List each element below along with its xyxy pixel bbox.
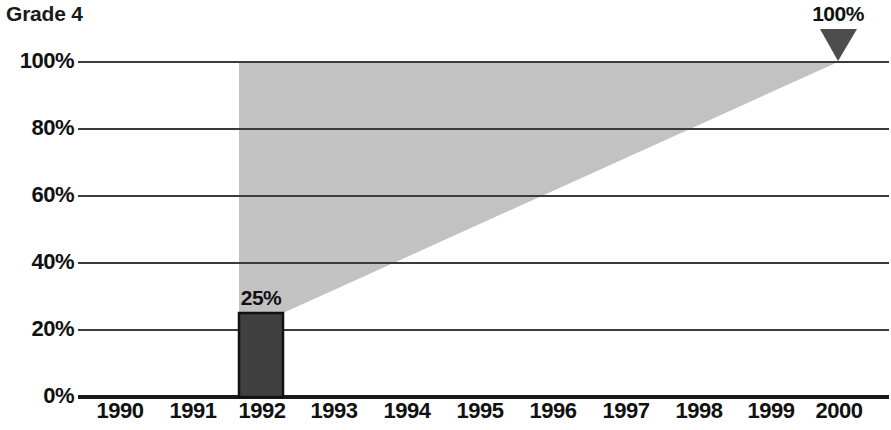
- y-tick-label-40: 40%: [0, 249, 74, 275]
- x-tick-label-1993: 1993: [294, 398, 374, 424]
- y-tick-label-20: 20%: [0, 316, 74, 342]
- goal-triangle-icon: [820, 29, 857, 61]
- y-tick-label-80: 80%: [0, 115, 74, 141]
- x-tick-label-1997: 1997: [586, 398, 666, 424]
- y-tick-label-60: 60%: [0, 182, 74, 208]
- y-tick-label-0: 0%: [0, 383, 74, 409]
- x-tick-label-2000: 2000: [799, 398, 879, 424]
- x-tick-label-1998: 1998: [659, 398, 739, 424]
- y-tick-label-100: 100%: [0, 48, 74, 74]
- x-tick-label-1992: 1992: [222, 398, 302, 424]
- x-tick-label-1990: 1990: [80, 398, 160, 424]
- bar-value-label-1992: 25%: [221, 286, 301, 310]
- x-tick-label-1995: 1995: [440, 398, 520, 424]
- goal-value-label-2000: 100%: [798, 2, 878, 26]
- x-tick-label-1991: 1991: [153, 398, 233, 424]
- data-bar-1992: [239, 313, 283, 397]
- plot-area: [0, 0, 891, 430]
- x-tick-label-1996: 1996: [513, 398, 593, 424]
- chart-container: Grade 4 100% 80% 60% 40% 20% 0% 1990 199…: [0, 0, 891, 430]
- x-tick-label-1994: 1994: [367, 398, 447, 424]
- shaded-progress-wedge: [239, 62, 838, 313]
